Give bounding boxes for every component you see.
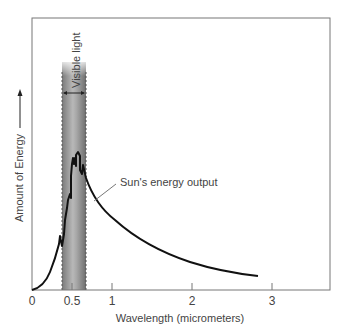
svg-text:0: 0 [29, 294, 36, 308]
y-axis-arrow-icon [18, 89, 23, 128]
svg-text:0.5: 0.5 [64, 294, 81, 308]
x-ticks [72, 283, 272, 290]
x-axis-label: Wavelength (micrometers) [116, 312, 245, 324]
svg-text:1: 1 [109, 294, 116, 308]
curve-label: Sun's energy output [120, 176, 218, 188]
visible-light-label: Visible light [70, 33, 82, 88]
svg-text:2: 2 [189, 294, 196, 308]
callout-line [94, 184, 116, 201]
chart: Visible light 0 0.5 1 2 3 Wavelength (mi… [0, 0, 345, 332]
svg-text:3: 3 [269, 294, 276, 308]
x-tick-labels: 0 0.5 1 2 3 [29, 294, 276, 308]
y-axis-label: Amount of Energy [13, 133, 25, 222]
